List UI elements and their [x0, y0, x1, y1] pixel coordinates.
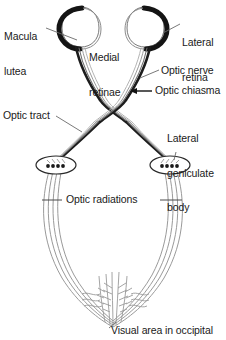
- optic-tract-leader: [56, 116, 82, 132]
- label-lgb-line1: Lateral: [167, 133, 214, 145]
- label-macula-lutea-line1: Macula: [4, 31, 37, 43]
- left-lateral-geniculate-body: [36, 156, 76, 174]
- label-medial-retinae-line2: retinae: [89, 87, 120, 99]
- lgb-dot: [61, 164, 65, 168]
- label-lateral-geniculate-body: Lateral geniculate body: [167, 110, 214, 237]
- label-macula-lutea: Macula lutea: [4, 8, 37, 100]
- label-lgb-line2: geniculate: [167, 168, 214, 180]
- right-eyeball: [125, 7, 167, 49]
- label-lgb-line3: body: [167, 202, 214, 214]
- lgb-dot: [46, 164, 50, 168]
- label-medial-retinae-line1: Medial: [89, 52, 120, 64]
- lgb-dot: [51, 164, 55, 168]
- lgb-dot: [160, 164, 164, 168]
- label-optic-radiations: Optic radiations: [66, 194, 137, 206]
- label-visual-area: Visual area in occipital: [111, 325, 213, 337]
- label-optic-chiasma: Optic chiasma: [155, 85, 220, 97]
- label-macula-lutea-line2: lutea: [4, 66, 37, 78]
- label-optic-nerve: Optic nerve: [161, 65, 214, 77]
- label-lateral-retina-line1: Lateral: [182, 37, 213, 49]
- visual-pathway-figure: Macula lutea Medial retinae Lateral reti…: [0, 0, 226, 340]
- label-optic-tract: Optic tract: [3, 110, 50, 122]
- label-medial-retinae: Medial retinae: [89, 29, 120, 121]
- lgb-dot: [56, 164, 60, 168]
